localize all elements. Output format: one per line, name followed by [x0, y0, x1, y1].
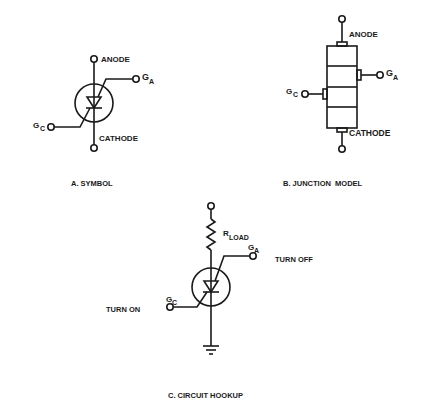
gate-cathode-subscript: C	[172, 299, 177, 306]
turn-on-label: TURN ON	[106, 305, 140, 314]
gate-anode-terminal	[377, 72, 383, 78]
gate-cathode-terminal	[48, 124, 54, 130]
anode-terminal	[91, 56, 97, 62]
gate-anode-lead	[215, 256, 250, 281]
gate-cathode-terminal	[302, 91, 308, 97]
panel-c-circuit-hookup	[167, 203, 256, 354]
scs-diagram: ANODE G A G C CATHODE A. SYMBOL ANODE G …	[0, 0, 426, 402]
caption-a: A. SYMBOL	[71, 179, 113, 188]
cathode-label: CATHODE	[99, 134, 139, 143]
turn-off-label: TURN OFF	[275, 255, 313, 264]
cathode-contact	[337, 128, 347, 132]
gate-cathode-lead	[54, 108, 90, 127]
cathode-terminal	[339, 146, 345, 152]
gate-anode-label: G	[386, 68, 393, 78]
gate-cathode-subscript: C	[40, 125, 45, 132]
gate-anode-contact	[357, 70, 361, 80]
anode-label: ANODE	[101, 55, 131, 64]
gate-anode-lead	[98, 79, 133, 97]
caption-c: C. CIRCUIT HOOKUP	[168, 391, 243, 400]
gate-cathode-subscript: C	[293, 91, 298, 98]
gate-anode-terminal	[133, 76, 139, 82]
anode-label: ANODE	[349, 30, 379, 39]
ground-icon	[203, 346, 219, 354]
load-subscript: LOAD	[229, 234, 249, 241]
anode-terminal	[339, 16, 345, 22]
gate-cathode-label: G	[286, 87, 292, 96]
gate-cathode-label: G	[33, 121, 39, 130]
gate-anode-label: G	[142, 72, 149, 82]
gate-anode-subscript: A	[149, 78, 154, 85]
gate-anode-subscript: A	[393, 74, 398, 81]
cathode-terminal	[91, 145, 97, 151]
supply-terminal	[208, 203, 214, 209]
gate-anode-subscript: A	[254, 247, 259, 254]
load-resistor-icon	[207, 219, 215, 250]
caption-b: B. JUNCTION MODEL	[283, 179, 363, 188]
gate-cathode-contact	[323, 89, 327, 99]
cathode-label: CATHODE	[349, 128, 391, 138]
gate-cathode-lead	[173, 292, 207, 307]
